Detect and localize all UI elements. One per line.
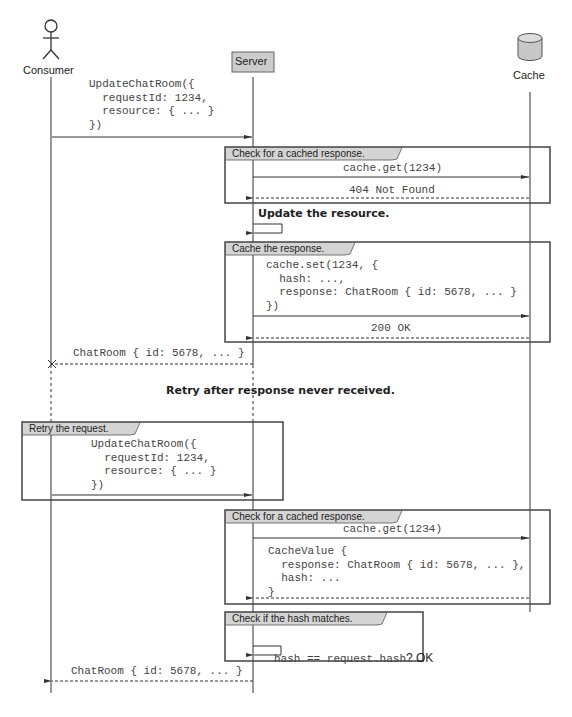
cache-set-text: cache.set(1234, { hash: ..., response: C…: [266, 259, 517, 313]
update-self-call-arrow: [253, 224, 282, 233]
initial-request-text: UpdateChatRoom({ requestId: 1234, resour…: [89, 78, 214, 132]
hash-result-text: ? OK: [406, 651, 433, 665]
frame-second-check-label: Check for a cached response.: [232, 511, 365, 522]
final-response-text: ChatRoom { id: 5678, ... }: [71, 665, 243, 679]
cache-value-text: CacheValue { response: ChatRoom { id: 56…: [268, 545, 525, 599]
frame-cache-response-label: Cache the response.: [232, 243, 324, 254]
not-found-result-text: 404 Not Found: [349, 184, 435, 198]
consumer-label: Consumer: [23, 64, 74, 76]
first-cache-get-text: cache.get(1234): [343, 162, 442, 176]
consumer-actor-icon: [43, 20, 59, 59]
retry-note: Retry after response never received.: [166, 384, 395, 397]
lost-response-arrow: [48, 360, 253, 368]
lost-response-text: ChatRoom { id: 5678, ... }: [73, 347, 245, 361]
retry-request-text: UpdateChatRoom({ requestId: 1234, resour…: [91, 438, 216, 492]
cache-label: Cache: [513, 69, 545, 81]
hash-expression-text: hash == request.hash: [274, 653, 406, 665]
update-resource-note: Update the resource.: [258, 207, 389, 220]
sequence-diagram: Consumer Server Cache UpdateChatRoom({ r…: [0, 0, 572, 717]
server-label: Server: [235, 55, 267, 67]
frame-first-check-label: Check for a cached response.: [232, 148, 365, 159]
second-cache-get-text: cache.get(1234): [343, 523, 442, 537]
cache-database-icon: [518, 34, 542, 61]
hash-check-line: hash == request.hash? OK: [258, 630, 433, 685]
ok-result-text: 200 OK: [371, 322, 411, 336]
frame-retry-label: Retry the request.: [29, 423, 108, 434]
frame-hash-check-label: Check if the hash matches.: [232, 613, 353, 624]
